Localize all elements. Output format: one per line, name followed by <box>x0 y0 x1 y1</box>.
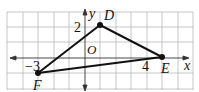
point-d <box>97 22 103 28</box>
coordinate-plane: y x O 2 −3 4 D E F <box>0 0 199 92</box>
point-label-f: F <box>32 78 42 92</box>
point-label-d: D <box>103 8 114 23</box>
y-axis-label: y <box>87 6 96 21</box>
x-tick-label-4: 4 <box>142 59 149 74</box>
y-axis-down-arrow-icon <box>83 85 87 91</box>
point-label-e: E <box>160 61 170 76</box>
labels: y x O 2 −3 4 D E F <box>25 6 191 92</box>
origin-label: O <box>87 42 97 57</box>
y-axis-up-arrow-icon <box>83 9 87 15</box>
x-tick-label-neg3: −3 <box>25 59 40 74</box>
point-e <box>159 54 165 60</box>
x-axis-left-arrow-icon <box>10 56 16 60</box>
x-axis-label: x <box>183 58 191 73</box>
y-tick-label-2: 2 <box>74 20 81 35</box>
